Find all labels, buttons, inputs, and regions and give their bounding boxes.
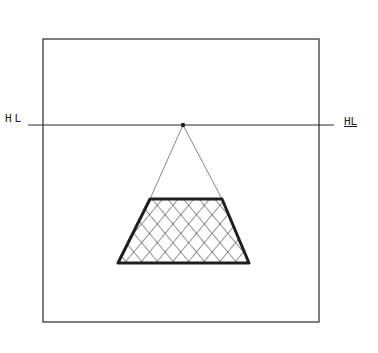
perspective-diagram (0, 0, 378, 353)
cross-hatching (100, 190, 270, 270)
horizon-label-right: HL (344, 116, 357, 127)
guide-line-left (150, 125, 183, 199)
vanishing-point (181, 123, 185, 127)
horizon-label-left: HL (5, 113, 24, 124)
guide-line-right (183, 125, 222, 199)
picture-frame (43, 39, 319, 322)
